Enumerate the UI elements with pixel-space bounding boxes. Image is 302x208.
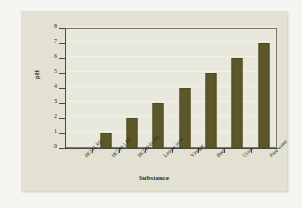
bar-slot [251,28,277,148]
bar-slot [172,28,198,148]
y-axis-tick: 3 [59,103,65,104]
y-axis-tick-label: 7 [54,38,57,44]
bar-slot [66,28,92,148]
bar-slot [224,28,250,148]
bar[interactable] [258,43,269,148]
bar[interactable] [206,73,217,148]
bar-slot [145,28,171,148]
y-axis-tick-label: 1 [54,128,57,134]
bar-slot [198,28,224,148]
chart-screenshot: 012345678 pH HCl (1 M)HCl (0.1 M)HCl (0.… [0,0,302,208]
y-axis-tick-label: 4 [54,83,57,89]
bar-slot [92,28,118,148]
y-axis-tick-label: 8 [54,23,57,29]
y-axis-tick: 5 [59,73,65,74]
figure-card: 012345678 pH HCl (1 M)HCl (0.1 M)HCl (0.… [21,11,287,191]
bar[interactable] [232,58,243,148]
y-axis-tick-label: 0 [54,143,57,149]
x-axis-title: Substance [21,174,287,181]
y-axis-tick: 4 [59,88,65,89]
y-axis-tick-label: 6 [54,53,57,59]
x-axis-labels: HCl (1 M)HCl (0.1 M)HCl (0.01 M)Lemon ju… [66,154,277,188]
y-axis-tick: 6 [59,58,65,59]
y-axis-title: pH [33,70,40,79]
bars-layer [66,28,277,148]
y-axis-tick: 0 [59,148,65,149]
y-axis-tick: 7 [59,43,65,44]
y-axis-tick: 1 [59,133,65,134]
y-axis-tick-label: 2 [54,113,57,119]
bar-slot [119,28,145,148]
y-axis-tick: 8 [59,28,65,29]
y-axis-tick-label: 3 [54,98,57,104]
y-axis-tick-label: 5 [54,68,57,74]
bar[interactable] [100,133,111,148]
y-axis-tick: 2 [59,118,65,119]
